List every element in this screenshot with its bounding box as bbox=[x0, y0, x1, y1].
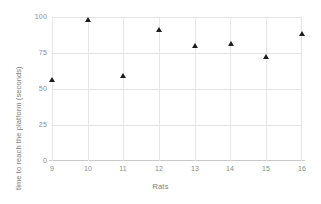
gridline-horizontal bbox=[52, 89, 302, 90]
data-point bbox=[263, 54, 269, 59]
gridline-vertical bbox=[301, 17, 302, 161]
x-tick-label: 9 bbox=[50, 165, 54, 172]
y-tick-label: 25 bbox=[39, 121, 47, 129]
gridline-vertical bbox=[266, 17, 267, 161]
x-tick-label: 14 bbox=[226, 165, 234, 172]
x-tick-label: 10 bbox=[84, 165, 92, 172]
y-tick-label: 75 bbox=[39, 49, 47, 57]
data-point bbox=[120, 73, 126, 78]
y-tick-label: 0 bbox=[43, 157, 47, 165]
gridline-vertical bbox=[230, 17, 231, 161]
data-point bbox=[156, 27, 162, 32]
gridline-vertical bbox=[195, 17, 196, 161]
data-point bbox=[49, 77, 55, 82]
y-tick-label: 50 bbox=[39, 85, 47, 93]
y-axis-title: time to reach the platform (seconds) bbox=[14, 0, 28, 190]
x-tick-label: 13 bbox=[191, 165, 199, 172]
x-axis-tick-labels: 9 10 11 12 13 14 15 16 bbox=[0, 165, 321, 177]
gridline-horizontal bbox=[52, 125, 302, 126]
scatter-chart: 100 75 50 25 0 9 10 11 12 13 14 15 16 bbox=[0, 0, 321, 204]
gridline-vertical bbox=[52, 17, 53, 161]
data-point bbox=[85, 17, 91, 22]
x-tick-label: 15 bbox=[262, 165, 270, 172]
x-tick-label: 11 bbox=[119, 165, 127, 172]
gridline-vertical bbox=[88, 17, 89, 161]
x-tick-label: 12 bbox=[155, 165, 163, 172]
data-point bbox=[299, 31, 305, 36]
gridline-vertical bbox=[123, 17, 124, 161]
plot-area bbox=[52, 17, 302, 161]
y-tick-label: 100 bbox=[35, 13, 47, 21]
gridline-vertical bbox=[159, 17, 160, 161]
data-point bbox=[228, 41, 234, 46]
x-axis-title: Rats bbox=[0, 182, 321, 191]
data-point bbox=[192, 43, 198, 48]
x-tick-label: 16 bbox=[298, 165, 306, 172]
